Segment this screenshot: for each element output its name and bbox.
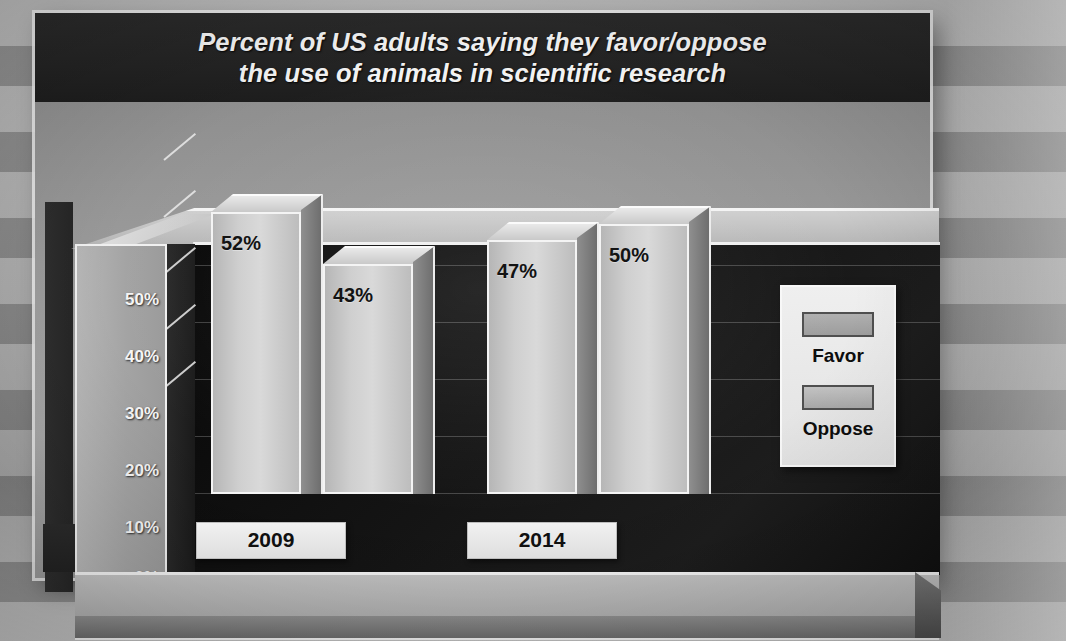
y-axis-side-panel [163,244,195,592]
page-title: Percent of US adults saying they favor/o… [198,27,766,89]
y-tick-connector-50 [163,133,196,161]
chart-body: 50% 40% 30% 20% 10% 0% 52% [35,102,930,578]
y-axis-tick-label-40: 40% [125,347,159,367]
bar-side-face [413,246,435,494]
bar-2009-oppose[interactable]: 43% [323,246,435,494]
y-axis-tick-label-50: 50% [125,290,159,310]
bar-side-face [689,206,711,494]
y-axis-tick-label-20: 20% [125,461,159,481]
y-axis-tick-label-10: 10% [125,518,159,538]
chart-legend: Favor Oppose [780,285,896,467]
bar-2014-oppose[interactable]: 50% [599,206,711,494]
bar-value-label: 43% [333,284,373,307]
legend-label-oppose: Oppose [803,418,874,440]
chart-title-line-1: Percent of US adults saying they favor/o… [198,27,766,58]
chart-title-line-2: the use of animals in scientific researc… [198,58,766,89]
legend-label-favor: Favor [812,345,864,367]
x-axis-category-label-2014: 2014 [467,522,617,559]
y-axis-tick-label-30: 30% [125,404,159,424]
bar-value-label: 52% [221,232,261,255]
plot-floor-top [75,572,939,619]
bar-2014-favor[interactable]: 47% [487,222,599,494]
bar-side-face [577,222,599,494]
chart-title-banner: Percent of US adults saying they favor/o… [35,13,930,102]
plot-floor-front [75,616,939,640]
chart-card: Percent of US adults saying they favor/o… [35,13,930,578]
bar-value-label: 47% [497,260,537,283]
legend-swatch-favor [802,312,874,337]
y-axis-wall: 50% 40% 30% 20% 10% 0% [75,244,167,596]
legend-swatch-oppose [802,385,874,410]
bar-side-face [301,194,323,494]
x-axis-category-label-2009: 2009 [196,522,346,559]
page-background: Percent of US adults saying they favor/o… [0,0,1066,641]
photo-glare [946,0,1066,641]
bar-2009-favor[interactable]: 52% [211,194,323,494]
bar-value-label: 50% [609,244,649,267]
